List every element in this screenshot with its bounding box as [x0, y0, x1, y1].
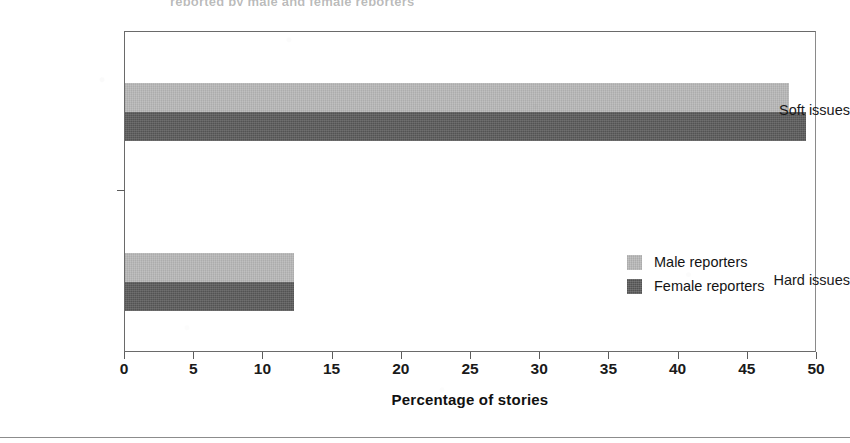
x-axis-tick-50: [816, 352, 817, 359]
legend-swatch-female-icon: [627, 279, 642, 294]
x-axis-title: Percentage of stories: [124, 391, 816, 408]
x-axis-tick-30: [539, 352, 540, 359]
x-axis-tick-label-50: 50: [796, 360, 836, 378]
page-divider-rule: [0, 437, 850, 438]
y-axis-tick: [117, 190, 125, 191]
x-axis-tick-25: [470, 352, 471, 359]
bar-hard-issues-female: [125, 282, 294, 311]
x-axis-tick-label-40: 40: [658, 360, 698, 378]
x-axis-tick-label-10: 10: [242, 360, 282, 378]
legend-label-male: Male reporters: [654, 254, 747, 270]
x-axis-tick-45: [747, 352, 748, 359]
x-axis-tick-10: [262, 352, 263, 359]
x-axis-tick-label-35: 35: [588, 360, 628, 378]
clipped-caption-text: reported by male and female reporters: [170, 0, 590, 6]
bar-soft-issues-female: [125, 112, 806, 141]
x-axis-tick-label-25: 25: [450, 360, 490, 378]
x-axis-tick-label-15: 15: [312, 360, 352, 378]
chart-figure: reported by male and female reporters So…: [0, 0, 850, 443]
y-axis-label-soft-issues: Soft issues: [732, 102, 850, 118]
x-axis-tick-35: [608, 352, 609, 359]
plot-area: [124, 31, 816, 352]
bar-hard-issues-male: [125, 253, 294, 282]
x-axis-tick-20: [401, 352, 402, 359]
x-axis-tick-label-0: 0: [104, 360, 144, 378]
legend-item-female: Female reporters: [627, 274, 764, 298]
x-axis-tick-label-45: 45: [727, 360, 767, 378]
bar-soft-issues-male: [125, 83, 789, 112]
legend-label-female: Female reporters: [654, 278, 764, 294]
x-axis-tick-5: [193, 352, 194, 359]
x-axis-tick-0: [124, 352, 125, 359]
x-axis-tick-label-30: 30: [519, 360, 559, 378]
chart-legend: Male reporters Female reporters: [627, 250, 764, 298]
x-axis-tick-15: [332, 352, 333, 359]
x-axis-tick-40: [678, 352, 679, 359]
legend-item-male: Male reporters: [627, 250, 764, 274]
x-axis-tick-label-20: 20: [381, 360, 421, 378]
legend-swatch-male-icon: [627, 255, 642, 270]
x-axis-tick-label-5: 5: [173, 360, 213, 378]
